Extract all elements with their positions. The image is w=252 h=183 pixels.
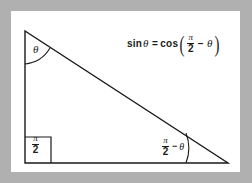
- math-label-layer: θ π 2 π 2 − θ sin θ = cos (: [0, 0, 252, 183]
- cos-label: cos: [160, 39, 178, 49]
- bottom-right-denominator: 2: [163, 147, 169, 158]
- equation-numerator: π: [188, 33, 193, 43]
- right-angle-fraction: π 2: [32, 134, 39, 155]
- equation-fraction: π 2: [187, 33, 194, 54]
- sin-argument-theta: θ: [142, 38, 149, 49]
- right-angle-denominator: 2: [33, 145, 39, 156]
- equals-sign: =: [149, 39, 160, 49]
- minus-sign: −: [195, 39, 206, 49]
- sin-label: sin: [127, 39, 142, 49]
- bottom-right-numerator: π: [163, 136, 168, 146]
- figure-root: θ π 2 π 2 − θ sin θ = cos (: [0, 0, 252, 183]
- bottom-right-minus: −: [170, 142, 179, 151]
- right-angle-label: π 2: [31, 134, 40, 155]
- top-angle-label: θ: [33, 44, 38, 55]
- identity-equation: sin θ = cos ( π 2 − θ ): [127, 33, 221, 54]
- bottom-right-angle-label: π 2 − θ: [161, 136, 184, 157]
- equation-denominator: 2: [188, 44, 194, 55]
- right-angle-numerator: π: [33, 134, 38, 144]
- bottom-right-fraction: π 2: [162, 136, 169, 157]
- cos-argument-theta: θ: [206, 38, 213, 49]
- bottom-right-theta: θ: [179, 142, 184, 152]
